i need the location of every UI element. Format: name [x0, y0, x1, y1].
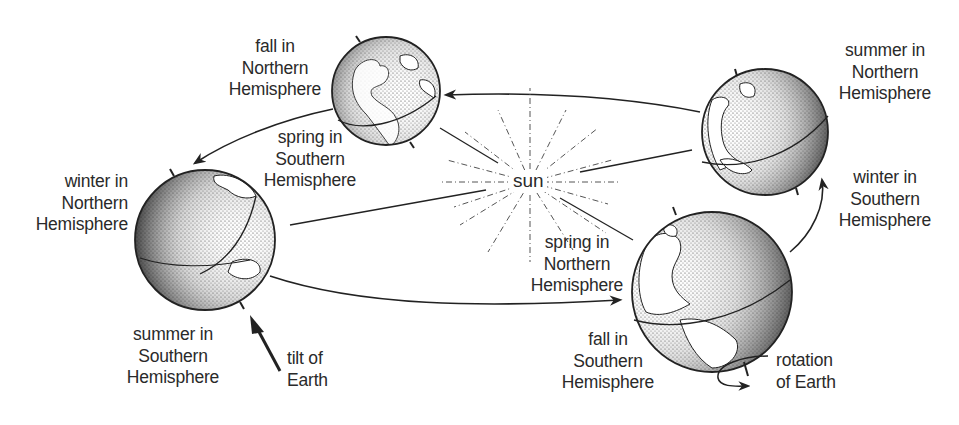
label-fall-north: fall in Northern Hemisphere	[223, 36, 327, 101]
label-spring-south: spring in Southern Hemisphere	[258, 127, 362, 192]
label-spring-north: spring in Northern Hemisphere	[524, 232, 630, 297]
label-fall-south: fall in Southern Hemisphere	[558, 329, 658, 394]
label-winter-south: winter in Southern Hemisphere	[830, 167, 940, 232]
label-summer-south: summer in Southern Hemisphere	[121, 324, 225, 389]
globe-winter-north	[135, 169, 275, 310]
tilt-arrow	[250, 315, 280, 371]
globe-summer-north	[702, 69, 828, 195]
label-summer-north: summer in Northern Hemisphere	[830, 40, 940, 105]
label-winter-north: winter in Northern Hemisphere	[24, 171, 128, 236]
sun-label: sun	[510, 170, 547, 192]
label-tilt: tilt of Earth	[287, 348, 337, 391]
label-rotation: rotation of Earth	[776, 350, 856, 393]
